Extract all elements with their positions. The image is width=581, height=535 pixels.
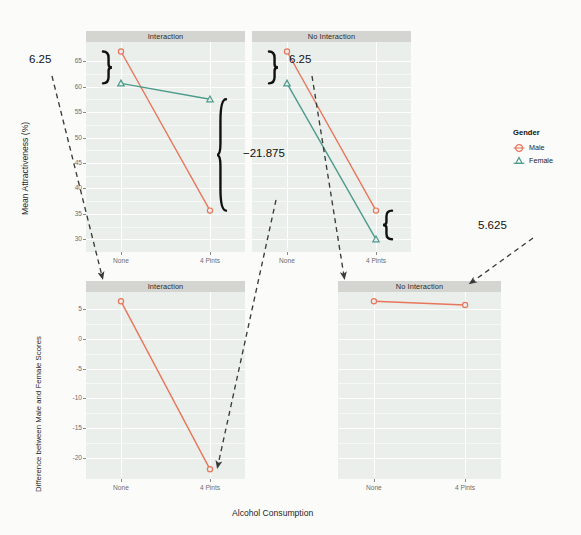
y-tick-label: 45	[66, 159, 82, 166]
y-tick-label: 50	[66, 134, 82, 141]
panel-strip-label: Interaction	[148, 282, 184, 291]
data-point-circle[interactable]	[371, 299, 376, 304]
series-layer-bottom-right	[338, 292, 501, 479]
legend-item-female[interactable]: Female	[513, 154, 553, 167]
y-tick-label: 65	[66, 57, 82, 64]
x-tick-label: 4 Pints	[196, 257, 224, 264]
y-tick-label: 5	[66, 305, 82, 312]
x-tick-mark	[376, 252, 377, 255]
data-point-circle[interactable]	[118, 299, 123, 304]
series-line-male	[121, 52, 210, 211]
data-point-triangle[interactable]	[118, 80, 124, 86]
y-tick-label: 55	[66, 108, 82, 115]
data-point-circle[interactable]	[463, 302, 468, 307]
x-tick-mark	[121, 252, 122, 255]
x-tick-label: None	[360, 484, 388, 491]
x-tick-label: None	[273, 257, 301, 264]
panel-strip-label: No Interaction	[396, 282, 443, 291]
y-axis-title-top: Mean Attractiveness (%)	[20, 122, 30, 215]
x-tick-mark	[287, 252, 288, 255]
legend: Gender Male Female	[513, 128, 553, 167]
data-point-triangle[interactable]	[207, 96, 213, 102]
x-tick-label: 4 Pints	[196, 484, 224, 491]
series-line-female	[287, 83, 376, 239]
y-tick-label: 35	[66, 210, 82, 217]
panel-strip-label: No Interaction	[308, 32, 355, 41]
series-layer-bottom-left	[86, 292, 245, 479]
panel-strip-top-right: No Interaction	[252, 31, 411, 42]
y-axis-title-bottom: Difference between Male and Female Score…	[34, 336, 43, 492]
data-point-circle[interactable]	[118, 49, 123, 54]
annotation-6-25-left: 6.25	[29, 53, 51, 65]
data-point-circle[interactable]	[373, 208, 378, 213]
x-tick-label: 4 Pints	[362, 257, 390, 264]
x-tick-label: 4 Pints	[451, 484, 479, 491]
annotation-5-625: 5.625	[478, 219, 507, 231]
legend-label-female: Female	[529, 156, 553, 165]
data-point-triangle[interactable]	[373, 236, 379, 242]
data-point-circle[interactable]	[207, 208, 212, 213]
figure-canvas: Mean Attractiveness (%) Difference betwe…	[0, 0, 581, 535]
x-tick-mark	[121, 479, 122, 482]
connector-5-625	[472, 238, 533, 282]
series-layer-top-left	[86, 42, 245, 252]
legend-label-male: Male	[529, 143, 545, 152]
x-tick-mark	[210, 479, 211, 482]
x-tick-mark	[210, 252, 211, 255]
x-axis-title: Alcohol Consumption	[232, 508, 313, 518]
x-tick-label: None	[107, 484, 135, 491]
circle-open-icon	[513, 142, 525, 154]
y-tick-label: -20	[66, 454, 82, 461]
panel-strip-top-left: Interaction	[86, 31, 245, 42]
x-tick-mark	[465, 479, 466, 482]
panel-strip-bottom-left: Interaction	[86, 281, 245, 292]
y-tick-label: 0	[66, 335, 82, 342]
panel-strip-label: Interaction	[148, 32, 184, 41]
panel-strip-bottom-right: No Interaction	[338, 281, 501, 292]
annotation-minus-21-875: −21.875	[243, 147, 285, 159]
y-tick-label: 60	[66, 83, 82, 90]
series-line-male	[287, 52, 376, 211]
y-tick-label: -5	[66, 365, 82, 372]
y-tick-label: -10	[66, 394, 82, 401]
y-tick-label: -15	[66, 424, 82, 431]
legend-title: Gender	[513, 128, 553, 137]
series-line-difference	[121, 301, 210, 469]
data-point-triangle[interactable]	[284, 80, 290, 86]
annotation-6-25-right: 6.25	[289, 53, 311, 65]
series-line-female	[121, 83, 210, 99]
data-point-circle[interactable]	[207, 467, 212, 472]
y-tick-label: 40	[66, 184, 82, 191]
series-line-difference	[374, 301, 465, 305]
triangle-open-icon	[513, 155, 525, 167]
x-tick-label: None	[107, 257, 135, 264]
y-tick-label: 30	[66, 235, 82, 242]
legend-item-male[interactable]: Male	[513, 141, 553, 154]
x-tick-mark	[374, 479, 375, 482]
